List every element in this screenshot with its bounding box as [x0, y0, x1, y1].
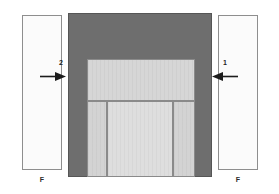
upper-panel	[87, 59, 195, 101]
diagram-canvas: F F 2 1	[0, 0, 279, 194]
arrow-left-icon	[212, 71, 238, 82]
lower-right-panel	[173, 101, 195, 177]
lower-center-panel-hatch	[108, 102, 172, 176]
central-block	[68, 13, 212, 177]
arrow-right-icon	[40, 71, 66, 82]
left-load-plate	[22, 15, 62, 170]
right-arrow-number: 1	[218, 59, 232, 66]
left-arrow-number: 2	[54, 59, 68, 66]
lower-left-panel	[87, 101, 107, 177]
lower-center-panel	[107, 101, 173, 177]
right-load-plate	[218, 15, 258, 170]
lower-right-panel-hatch	[174, 102, 194, 176]
upper-panel-hatch	[88, 60, 194, 100]
left-plate-label: F	[22, 176, 62, 183]
lower-left-panel-hatch	[88, 102, 106, 176]
right-plate-label: F	[218, 176, 258, 183]
